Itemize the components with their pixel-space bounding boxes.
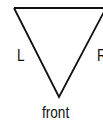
left-label: L — [17, 47, 25, 64]
front-label: front — [42, 104, 69, 121]
triangle-shape — [14, 8, 103, 97]
right-label: R — [97, 47, 103, 64]
